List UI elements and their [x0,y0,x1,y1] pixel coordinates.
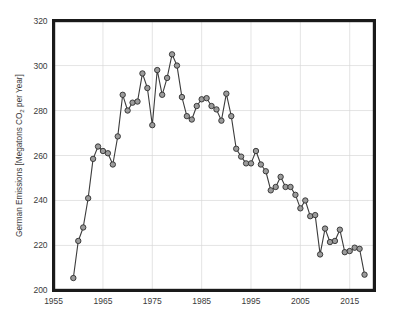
x-tick-label: 2015 [340,296,359,306]
data-point-marker: 1966: 261 [105,151,110,156]
grid-lines [54,21,375,291]
data-point-marker: 1993: 259.5 [238,154,243,159]
data-point-marker: 1998: 253 [263,169,268,174]
x-tick-label: 1985 [192,296,211,306]
data-point-marker: 2005: 236.5 [298,206,303,211]
data-point-marker: 1973: 296.5 [140,71,145,76]
data-point-marker: 2001: 250.5 [278,174,283,179]
chart-container: 1959: 205.51960: 2221961: 2281962: 24119… [0,0,394,323]
y-tick-label: 300 [33,61,47,71]
data-point-marker: 1980: 300 [174,63,179,68]
data-point-marker: 2009: 216 [317,252,322,257]
data-point-marker: 2006: 240 [303,198,308,203]
x-tick-label: 1955 [44,296,63,306]
data-point-marker: 1962: 241 [85,196,90,201]
data-point-marker: 1963: 258.5 [90,156,95,161]
data-point-marker: 1976: 298 [155,67,160,72]
data-point-marker: 2013: 227 [337,227,342,232]
data-point-marker: 1972: 284 [135,99,140,104]
data-point-marker: 2008: 233.5 [312,212,317,217]
data-point-marker: 1960: 222 [76,238,81,243]
data-point-marker: 1968: 268.5 [115,134,120,139]
data-point-marker: 1961: 228 [81,225,86,230]
x-tick-label: 2005 [291,296,310,306]
data-point-marker: 1974: 290 [145,85,150,90]
y-tick-label: 280 [33,106,47,116]
data-point-marker: 1997: 256 [258,162,263,167]
y-axis-tick-labels: 200220240260280300320 [33,16,47,296]
y-tick-label: 200 [33,285,47,295]
data-point-marker: 2004: 242.5 [293,192,298,197]
data-point-marker: 1990: 287.5 [224,91,229,96]
data-point-marker: 1978: 294.5 [164,75,169,80]
data-point-marker: 2010: 227.5 [322,226,327,231]
data-point-marker: 1982: 277.5 [184,113,189,118]
data-point-marker: 1986: 285.5 [204,95,209,100]
x-tick-label: 1975 [143,296,162,306]
data-point-marker: 1959: 205.5 [71,275,76,280]
data-point-marker: 1989: 275.5 [219,118,224,123]
data-point-marker: 1991: 277.5 [229,113,234,118]
data-point-marker: 1995: 256.5 [248,161,253,166]
data-point-marker: 2015: 217.5 [347,248,352,253]
data-point-marker: 1969: 287 [120,92,125,97]
x-tick-label: 1965 [93,296,112,306]
data-point-marker: 1970: 280 [125,108,130,113]
data-point-marker: 1996: 262 [253,148,258,153]
y-tick-label: 220 [33,240,47,250]
data-series-group: 1959: 205.51960: 2221961: 2281962: 24119… [71,52,368,281]
data-point-marker: 1999: 244.5 [268,188,273,193]
data-point-marker: 1975: 273.5 [150,122,155,127]
data-point-marker: 1987: 282 [209,103,214,108]
y-tick-label: 320 [33,16,47,26]
data-point-marker: 2012: 222 [332,238,337,243]
x-tick-label: 1995 [242,296,261,306]
data-point-marker: 1964: 264 [95,144,100,149]
data-point-marker: 1988: 280.5 [214,107,219,112]
data-point-marker: 2000: 246 [273,184,278,189]
series-line [73,54,364,278]
data-point-marker: 1992: 263 [234,146,239,151]
data-point-marker: 1981: 286 [179,94,184,99]
data-point-marker: 2017: 218.5 [357,246,362,251]
y-axis-title-text: German Emissions [Megatons CO2 per Year] [15,74,25,237]
data-point-marker: 1979: 305 [169,52,174,57]
emissions-line-chart: 1959: 205.51960: 2221961: 2281962: 24119… [0,0,394,323]
y-tick-label: 260 [33,151,47,161]
data-point-marker: 1984: 282 [194,103,199,108]
data-point-marker: 1977: 287 [159,92,164,97]
data-point-marker: 2003: 246 [288,184,293,189]
data-point-marker: 2018: 207 [362,272,367,277]
data-point-marker: 1983: 276 [189,117,194,122]
data-point-marker: 1967: 256 [110,162,115,167]
x-axis-tick-labels: 1955196519751985199520052015 [44,296,359,306]
y-axis-title: German Emissions [Megatons CO2 per Year] [15,74,25,237]
y-tick-label: 240 [33,195,47,205]
